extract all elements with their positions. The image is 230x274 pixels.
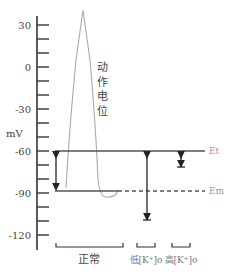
y-axis-unit: mV (6, 128, 23, 139)
curve-label-3: 电 (97, 90, 108, 103)
tick-label-30: 30 (18, 20, 31, 31)
tick-label-0: 0 (25, 62, 31, 73)
tick-label-minus90: -90 (15, 188, 31, 199)
tick-label-minus120: -120 (9, 230, 31, 241)
tick-label-minus30: -30 (15, 104, 31, 115)
bracket-low-k (137, 243, 155, 247)
tick-label-minus60: -60 (15, 146, 31, 157)
action-potential-diagram: 30 0 -30 -60 -90 -120 mV Et Em 动 作 电 位 正… (0, 0, 230, 274)
bracket-normal (56, 243, 123, 247)
resting-label: Em (209, 186, 225, 196)
y-ticks (37, 25, 49, 235)
threshold-label: Et (209, 146, 220, 156)
action-potential-curve (66, 10, 118, 197)
curve-label-4: 位 (97, 104, 108, 118)
bracket-high-k (172, 243, 190, 247)
group-label-normal: 正常 (78, 253, 100, 266)
group-label-high-k: 高[K⁺]o (165, 254, 198, 265)
curve-label-1: 动 (97, 61, 108, 74)
group-label-low-k: 低[K⁺]o (130, 254, 163, 265)
curve-label-2: 作 (97, 76, 108, 89)
